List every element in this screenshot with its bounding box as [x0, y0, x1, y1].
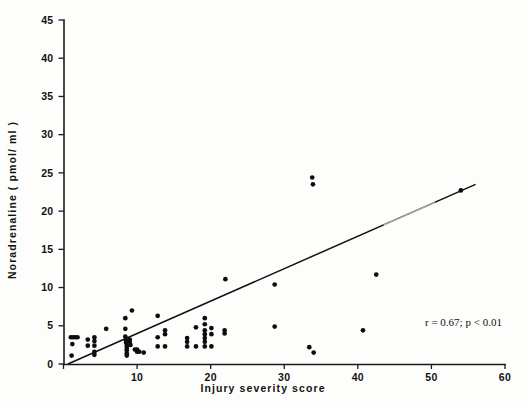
y-tick-label: 15 [41, 243, 53, 255]
data-point [361, 328, 366, 333]
data-point [155, 335, 160, 340]
x-axis-title: Injury severity score [200, 382, 325, 394]
x-tick-label: 10 [131, 371, 143, 383]
data-point [123, 326, 128, 331]
data-point [374, 272, 379, 277]
data-point [70, 342, 75, 347]
data-point [202, 344, 207, 349]
regression-line-fade [384, 202, 436, 225]
data-point [307, 345, 312, 350]
data-point [128, 343, 133, 348]
y-tick-label: 35 [41, 90, 53, 102]
plot-canvas: 102030405060051015202530354045 Injury se… [0, 0, 528, 407]
data-point [141, 350, 146, 355]
data-point [75, 335, 80, 340]
data-point [223, 277, 228, 282]
data-point [209, 332, 214, 337]
data-point [272, 282, 277, 287]
data-point [194, 344, 199, 349]
data-point [155, 344, 160, 349]
data-point [124, 353, 129, 358]
data-point [459, 188, 464, 193]
data-point [209, 344, 214, 349]
data-point [92, 343, 97, 348]
x-tick-label: 50 [425, 371, 437, 383]
x-tick-label: 60 [499, 371, 511, 383]
data-point [185, 339, 190, 344]
data-point [163, 344, 168, 349]
data-point [123, 316, 128, 321]
data-point [202, 339, 207, 344]
data-points [69, 175, 464, 358]
data-point [69, 353, 74, 358]
y-axis-title: Noradrenaline ( pmol/ ml ) [6, 121, 18, 279]
data-point [194, 325, 199, 330]
y-tick-label: 25 [41, 167, 53, 179]
regression-line [68, 184, 476, 364]
y-tick-label: 40 [41, 52, 53, 64]
scatter-plot-figure: 102030405060051015202530354045 Injury se… [0, 0, 528, 407]
data-point [85, 337, 90, 342]
data-point [310, 175, 315, 180]
data-point [202, 316, 207, 321]
data-point [85, 343, 90, 348]
data-point [92, 339, 97, 344]
y-tick-label: 0 [47, 358, 53, 370]
data-point [137, 349, 142, 354]
data-point [185, 344, 190, 349]
data-point [202, 322, 207, 327]
data-point [130, 308, 135, 313]
data-point [104, 326, 109, 331]
y-tick-label: 30 [41, 128, 53, 140]
y-tick-label: 10 [41, 281, 53, 293]
y-tick-label: 45 [41, 14, 53, 26]
y-tick-label: 5 [47, 319, 53, 331]
data-point [92, 352, 97, 357]
y-tick-label: 20 [41, 205, 53, 217]
data-point [272, 324, 277, 329]
data-point [311, 182, 316, 187]
data-point [311, 350, 316, 355]
axes [64, 20, 506, 365]
x-tick-label: 40 [352, 371, 364, 383]
correlation-annotation: r = 0.67; p < 0.01 [425, 316, 502, 328]
data-point [155, 313, 160, 318]
data-point [163, 332, 168, 337]
data-point [222, 331, 227, 336]
data-point [209, 326, 214, 331]
